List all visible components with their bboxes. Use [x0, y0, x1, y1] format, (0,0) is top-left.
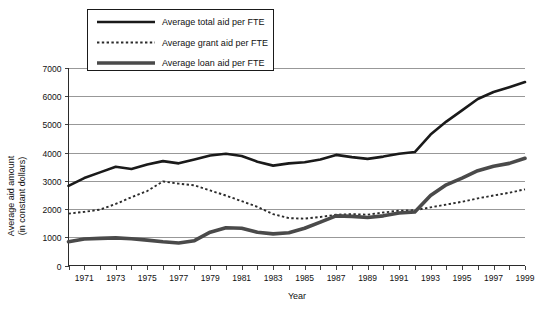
y-tick-label: 6000 — [43, 92, 62, 102]
x-tick-label: 1999 — [516, 273, 535, 283]
x-tick-label: 1979 — [201, 273, 220, 283]
x-tick-label: 1993 — [421, 273, 440, 283]
x-tick-label: 1997 — [484, 273, 503, 283]
x-tick-label: 1977 — [169, 273, 188, 283]
series-line-2 — [69, 158, 526, 243]
x-tick-label: 1975 — [138, 273, 157, 283]
legend-label-2: Average loan aid per FTE — [162, 58, 264, 68]
y-tick-label: 5000 — [43, 120, 62, 130]
x-axis-title: Year — [288, 291, 306, 301]
legend-label-1: Average grant aid per FTE — [162, 38, 268, 48]
y-axis-title: Average aid amount (in constant dollars) — [6, 155, 27, 236]
y-axis-ticks: 01000200030004000500060007000 — [43, 64, 69, 272]
y-tick-label: 1000 — [43, 233, 62, 243]
x-tick-label: 1973 — [106, 273, 125, 283]
x-tick-label: 1985 — [295, 273, 314, 283]
x-tick-label: 1983 — [264, 273, 283, 283]
series-line-1 — [69, 181, 526, 218]
y-tick-label: 3000 — [43, 177, 62, 187]
y-tick-label: 0 — [57, 262, 62, 272]
line-chart: 01000200030004000500060007000 1971197319… — [0, 0, 539, 314]
x-tick-label: 1971 — [75, 273, 94, 283]
y-tick-label: 7000 — [43, 64, 62, 74]
chart-legend: Average total aid per FTEAverage grant a… — [88, 10, 274, 71]
y-axis-title-line1: Average aid amount — [6, 155, 16, 236]
x-tick-label: 1987 — [327, 273, 346, 283]
legend-label-0: Average total aid per FTE — [162, 17, 264, 27]
series-line-0 — [69, 82, 526, 186]
data-series-group — [69, 82, 526, 243]
y-axis-title-line2: (in constant dollars) — [17, 157, 27, 236]
x-tick-label: 1989 — [358, 273, 377, 283]
x-tick-label: 1981 — [232, 273, 251, 283]
y-tick-label: 2000 — [43, 205, 62, 215]
y-tick-label: 4000 — [43, 149, 62, 159]
x-axis-ticks: 1971197319751977197919811983198519871989… — [70, 266, 535, 283]
chart-figure: 01000200030004000500060007000 1971197319… — [0, 0, 539, 314]
gridlines-group — [69, 69, 526, 238]
x-tick-label: 1995 — [453, 273, 472, 283]
x-tick-label: 1991 — [390, 273, 409, 283]
